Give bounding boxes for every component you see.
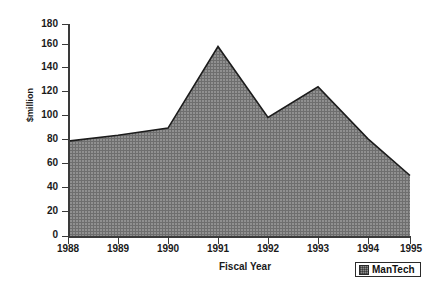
x-tick-label-1993: 1993 (291, 243, 345, 255)
chart-legend: ManTech (355, 262, 421, 277)
x-tick-label-1991: 1991 (191, 243, 245, 255)
legend-item-label-mantech: ManTech (372, 265, 415, 275)
x-axis-line (68, 236, 411, 238)
x-tick-label-1988: 1988 (41, 243, 95, 255)
hatched-square-swatch-icon (359, 265, 369, 275)
x-tick-label-1992: 1992 (241, 243, 295, 255)
x-tick-label-1990: 1990 (141, 243, 195, 255)
x-tick-label-1989: 1989 (91, 243, 145, 255)
area-chart: $million 180 160 140 120 100 80 60 40 20… (0, 0, 442, 291)
y-axis-line (68, 24, 70, 238)
x-tick-label-1995: 1995 (384, 243, 438, 255)
x-axis-title: Fiscal Year (170, 261, 320, 272)
